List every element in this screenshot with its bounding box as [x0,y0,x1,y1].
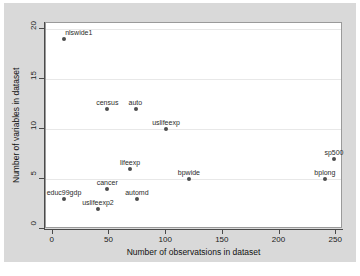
scatter-point [164,127,168,131]
x-tick-label: 150 [215,235,228,244]
gridline-y-5 [46,179,341,180]
scatter-point [62,37,66,41]
scatter-point [187,177,191,181]
point-label: educ99gdp [47,189,82,197]
y-tick-20 [39,28,44,29]
x-axis-title: Number of observatsions in dataset [45,247,342,257]
scatter-point [105,187,109,191]
point-label: auto [129,99,143,107]
point-label: uslifeexp [152,119,180,127]
point-label: lifeexp [120,159,140,167]
y-tick-10 [39,128,44,129]
point-label: nlswide1 [65,29,92,37]
y-tick-5 [39,178,44,179]
gridline-y-10 [46,129,341,130]
x-tick-200 [279,229,280,234]
y-tick-label: 20 [29,21,38,30]
x-tick-label: 0 [50,235,54,244]
scatter-point [323,177,327,181]
x-tick-250 [335,229,336,234]
y-tick-label: 10 [29,121,38,130]
scatter-point [332,157,336,161]
x-tick-100 [165,229,166,234]
scatter-point [135,197,139,201]
x-tick-0 [52,229,53,234]
point-label: sp500 [324,149,343,157]
x-tick-label: 100 [158,235,171,244]
point-label: bpwide [178,169,200,177]
scatter-point [128,167,132,171]
y-tick-label: 5 [29,171,38,175]
x-tick-label: 250 [329,235,342,244]
y-axis-title: Number of variables in dataset [10,22,22,229]
y-axis-line [44,22,45,229]
point-label: bplong [314,169,335,177]
y-tick-label: 15 [29,71,38,80]
x-tick-50 [108,229,109,234]
plot-area: nlswide1censusautouslifeexpsp500lifeexpb… [45,22,342,228]
point-label: uslifeexp2 [82,199,114,207]
scatter-point [62,197,66,201]
scatter-point [96,207,100,211]
y-tick-15 [39,78,44,79]
point-label: automd [125,189,148,197]
point-label: cancer [97,179,118,187]
scatter-point [134,107,138,111]
y-tick-label: 0 [29,221,38,225]
point-label: census [96,99,118,107]
x-tick-label: 200 [272,235,285,244]
x-axis-line [44,229,343,230]
chart-figure: nlswide1censusautouslifeexpsp500lifeexpb… [4,3,356,262]
x-tick-150 [222,229,223,234]
scatter-point [105,107,109,111]
x-tick-label: 50 [104,235,113,244]
gridline-y-15 [46,79,341,80]
